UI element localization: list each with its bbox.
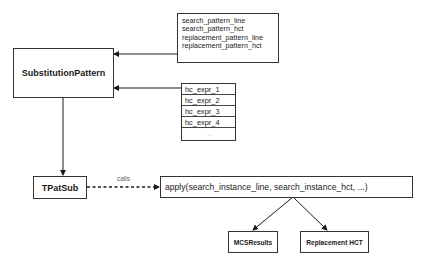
substitution-pattern-label: SubstitutionPattern — [22, 68, 106, 78]
hc-expr-item: hc_expr_3 — [182, 106, 235, 117]
replacement-hct-label: Replacement HCT — [306, 239, 362, 246]
substitution-pattern-node[interactable]: SubstitutionPattern — [13, 48, 114, 98]
hc-expr-more: ... — [182, 128, 235, 139]
mcs-results-node[interactable]: MCSResults — [228, 231, 278, 253]
mcs-results-label: MCSResults — [234, 239, 272, 246]
pattern-fields-node[interactable]: search_pattern_line search_pattern_hct r… — [177, 13, 279, 63]
hc-expr-item: hc_expr_1 — [182, 84, 235, 95]
tpatsub-label: TPatSub — [42, 183, 79, 193]
field-item: replacement_pattern_hct — [182, 42, 274, 50]
calls-edge-label: calls — [117, 175, 130, 182]
apply-call-node[interactable]: apply(search_instance_line, search_insta… — [160, 176, 413, 198]
replacement-hct-node[interactable]: Replacement HCT — [300, 231, 369, 253]
tpatsub-node[interactable]: TPatSub — [33, 176, 87, 199]
edge-apply-to-replacement-hct — [293, 197, 327, 230]
apply-call-label: apply(search_instance_line, search_insta… — [165, 182, 368, 192]
hc-expr-item: hc_expr_4 — [182, 117, 235, 128]
edge-apply-to-mcsresults — [253, 197, 293, 230]
hc-expr-list-node[interactable]: hc_expr_1 hc_expr_2 hc_expr_3 hc_expr_4 … — [181, 83, 236, 141]
hc-expr-item: hc_expr_2 — [182, 95, 235, 106]
